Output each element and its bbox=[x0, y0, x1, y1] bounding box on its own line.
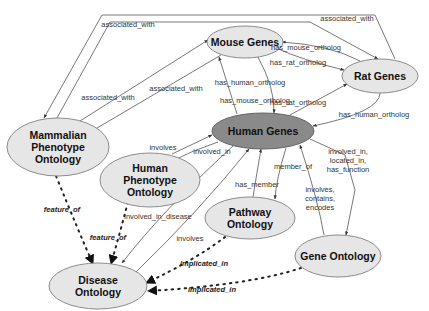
edge-label-go-to-human: involves,contains,encodes bbox=[305, 185, 335, 212]
edge-label-human-to-go: involved_in,located_in,has_function bbox=[327, 147, 370, 174]
node-hpo: HumanPhenotypeOntology bbox=[100, 153, 200, 207]
node-do: DiseaseOntology bbox=[49, 263, 147, 309]
edge-label-go-to-do: implicated_in bbox=[188, 285, 236, 294]
node-mouse-label: Mouse Genes bbox=[211, 36, 279, 48]
node-rat: Rat Genes bbox=[342, 59, 418, 93]
edge-label-pw-to-do: implicated_in bbox=[180, 259, 228, 268]
ontology-relationship-diagram: Mouse GenesRat GenesHuman GenesMammalian… bbox=[0, 0, 429, 311]
edge-label-rat-to-mpo: associated_with bbox=[320, 14, 373, 23]
node-mpo-label: MammalianPhenotypeOntology bbox=[29, 129, 86, 165]
node-human: Human Genes bbox=[212, 113, 314, 149]
node-pw-label: PathwayOntology bbox=[227, 206, 273, 230]
node-human-label: Human Genes bbox=[228, 125, 299, 137]
edge-mpo-to-mouse bbox=[80, 40, 208, 121]
node-go-label: Gene Ontology bbox=[300, 250, 375, 262]
node-rat-label: Rat Genes bbox=[354, 70, 406, 82]
edge-label-do-to-human: involves bbox=[176, 234, 203, 243]
edge-label-mouse-to-rat: has_rat_ortholog bbox=[270, 58, 326, 67]
edge-label-human-to-rat: has_rat_ortholog bbox=[270, 98, 326, 107]
edge-label-mpo-to-do: feature_of bbox=[44, 205, 82, 214]
edge-label-hpo-to-do: feature_of bbox=[90, 233, 128, 242]
edge-label-mouse-to-mpo: associated_with bbox=[149, 84, 202, 93]
edge-label-pw-to-human: has_member bbox=[235, 180, 279, 189]
edge-label-mpo-to-mouse: associated_with bbox=[81, 93, 134, 102]
node-mpo: MammalianPhenotypeOntology bbox=[7, 118, 109, 176]
edge-mpo-to-do bbox=[56, 176, 93, 264]
edge-label-hpo-to-human: involves bbox=[149, 143, 176, 152]
edge-label-rat-to-mouse: has_mouse_ortholog bbox=[271, 43, 341, 52]
edge-label-human-to-pw: member_of bbox=[274, 162, 313, 171]
edge-label-rat-to-human: has_human_ortholog bbox=[339, 110, 409, 119]
edge-pw-to-human bbox=[253, 149, 261, 197]
edge-label-human-to-do: involved_in_disease bbox=[124, 212, 192, 221]
node-pw: PathwayOntology bbox=[205, 197, 295, 239]
edge-label-mouse-to-human: has_human_ortholog bbox=[215, 78, 285, 87]
node-do-label: DiseaseOntology bbox=[75, 274, 121, 298]
edge-label-human-to-hpo: involved_in bbox=[193, 147, 231, 156]
edge-label-mpo-to-rat: associated_with bbox=[101, 20, 154, 29]
node-go: Gene Ontology bbox=[295, 235, 381, 277]
edge-human-to-pw bbox=[275, 148, 286, 199]
